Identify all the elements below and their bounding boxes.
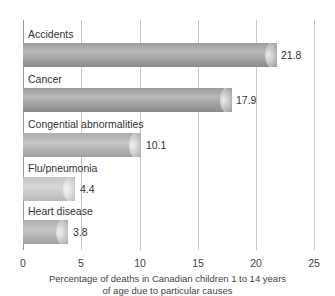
value-label: 3.8 <box>73 226 88 238</box>
bar-body <box>23 220 60 244</box>
value-label: 21.8 <box>281 49 301 61</box>
category-label: Congential abnormalities <box>28 118 144 130</box>
bar-cancer <box>23 88 232 112</box>
bar-congential-abnormalities <box>23 133 141 157</box>
bar-end-cap <box>63 177 75 201</box>
x-axis-title-line-1: Percentage of deaths in Canadian childre… <box>0 273 335 285</box>
gridline-25 <box>314 20 315 250</box>
x-tick-label: 10 <box>134 257 146 269</box>
x-axis-title-line-2: of age due to particular causes <box>0 285 335 296</box>
bar-body <box>23 43 269 67</box>
category-label: Accidents <box>28 28 74 40</box>
x-tick-label: 20 <box>250 257 262 269</box>
value-label: 4.4 <box>80 183 95 195</box>
bar-end-cap <box>220 88 232 112</box>
bar-body <box>23 133 133 157</box>
bar-flu-pneumonia <box>23 177 75 201</box>
x-tick-label: 15 <box>192 257 204 269</box>
bar-accidents <box>23 43 277 67</box>
x-axis-title: Percentage of deaths in Canadian childre… <box>0 273 335 296</box>
bar-heart-disease <box>23 220 68 244</box>
bar-body <box>23 177 67 201</box>
x-tick-label: 5 <box>78 257 84 269</box>
x-tick-label: 25 <box>308 257 320 269</box>
bar-end-cap <box>265 43 277 67</box>
bar-end-cap <box>129 133 141 157</box>
bar-body <box>23 88 224 112</box>
category-label: Cancer <box>28 73 62 85</box>
category-label: Flu/pneumonia <box>28 162 97 174</box>
bar-chart: Accidents 21.8 Cancer 17.9 Congential ab… <box>0 0 335 296</box>
category-label: Heart disease <box>28 205 93 217</box>
bar-end-cap <box>56 220 68 244</box>
x-tick-label: 0 <box>20 257 26 269</box>
value-label: 17.9 <box>236 94 256 106</box>
value-label: 10.1 <box>146 139 166 151</box>
